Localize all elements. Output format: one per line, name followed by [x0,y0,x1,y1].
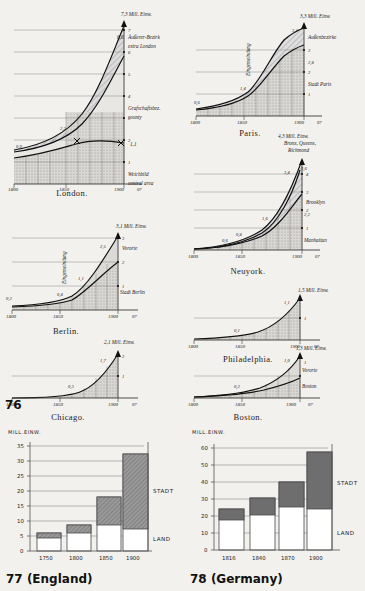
germany-unit-label: MILL.EINW. [192,429,225,435]
boston-label-boston: Boston [302,383,317,389]
paris-plot: 123 1800 1850 1900 07 3,3 Mill. Einw. 3,… [190,13,337,125]
berlin-label-city: Stadt Berlin [120,289,145,295]
newyork-plot: 12 34 1800 1850 1900 07 4,3 Mill. Einw. … [188,133,327,259]
germany-legend-stadt: STADT [337,480,358,486]
chart-newyork: 12 34 1800 1850 1900 07 4,3 Mill. Einw. … [188,150,364,280]
berlin-xtick-1900: 1900 [108,314,119,319]
england-legend-land: LAND [153,536,171,542]
newyork-top-label-3: Richmond [287,147,309,153]
london-label-county: Grafschaftsbez. [128,105,160,111]
newyork-value-3-4: 3,4 [284,170,290,176]
berlin-label-vororte: Vororte [122,245,138,251]
germany-xtick-1870: 1870 [281,555,295,561]
svg-text:35: 35 [17,443,24,449]
germany-legend-land: LAND [337,530,355,536]
newyork-value-0-6: 0,6 [222,238,228,244]
berlin-xtick-07: 07 [132,314,137,319]
london-value-1-1: 1,1 [130,141,137,147]
boston-value-1-0: 1,0 [284,358,290,364]
berlin-plot: 123 1800 1850 1900 07 3,1 Mill. Einw. 2,… [6,223,147,319]
chicago-top-label: 2,1 Mill. Einw. [104,339,135,345]
svg-text:5: 5 [128,72,131,77]
figure-number-78: 78 (Germany) [190,572,364,586]
chart-boston: 1 1800 1850 1900 07 1,3 Mill. Einw. 1,0 … [188,348,364,426]
svg-text:60: 60 [201,445,208,451]
berlin-value-2-5: 2,5 [100,244,106,250]
england-xtick-1850: 1850 [99,555,113,561]
bar-chart-germany: MILL.EINW. [188,424,364,589]
newyork-label-manhattan: Manhattan [303,237,327,243]
chicago-plot: 1 2 1800 1850 1900 07 2,1 Mill. Einw. 1,… [6,339,138,407]
boston-xtick-1800: 1800 [188,402,199,407]
germany-xtick-1900: 1900 [309,555,323,561]
newyork-value-0-8: 0,8 [236,232,242,238]
paris-value-1-4: 1,4 [240,86,246,92]
svg-text:1: 1 [122,374,124,379]
svg-text:0: 0 [204,547,208,553]
chart-london: 12 34 56 7 1800 1850 1900 07 7,3 Mill. E… [4,2,184,202]
svg-text:1: 1 [304,360,306,365]
chicago-value-0-3: 0,3 [68,384,74,390]
paris-label-city: Stadt Paris [308,81,331,87]
paris-xtick-1800: 1800 [190,120,201,125]
svg-text:25: 25 [17,473,24,479]
paris-value-2-8: 2,8 [308,60,314,66]
newyork-label-brooklyn: Brooklyn [306,199,325,205]
berlin-value-1-1: 1,1 [78,276,84,282]
paris-label-eingemeindung: Eingemeindung [245,43,251,77]
paris-value-0-6: 0,6 [194,100,200,106]
england-xtick-1800: 1800 [69,555,83,561]
svg-text:2: 2 [308,70,311,75]
germany-xtick-1816: 1816 [222,555,236,561]
svg-text:40: 40 [201,479,208,485]
boston-label-vororte: Vororte [302,367,318,373]
svg-text:10: 10 [17,518,24,524]
england-xtick-1900: 1900 [126,555,140,561]
london-label-outer: Äußerer-Bezirk [127,34,160,40]
chart-chicago: 1 2 1800 1850 1900 07 2,1 Mill. Einw. 1,… [4,348,184,426]
paris-top-label: 3,3 Mill. Einw. [300,13,331,19]
newyork-xtick-1800: 1800 [188,254,199,259]
newyork-value-1-6: 1,6 [262,216,268,222]
svg-text:2: 2 [122,354,125,359]
chart-caption-chicago: Chicago. [8,412,128,422]
svg-text:3: 3 [306,190,309,195]
berlin-label-eingemeindung: Eingemeindung [61,251,67,285]
svg-text:10: 10 [201,530,208,536]
berlin-xtick-1800: 1800 [6,314,17,319]
london-label-central: Weichbild [128,171,149,177]
svg-text:2: 2 [122,260,125,265]
newyork-xtick-1900: 1900 [292,254,303,259]
svg-text:4: 4 [306,172,309,177]
svg-text:15: 15 [17,503,24,509]
svg-text:6: 6 [128,50,131,55]
germany-xtick-1840: 1840 [252,555,266,561]
philadelphia-top-label: 1,5 Mill. Einw. [298,287,329,293]
boston-xtick-1900: 1900 [286,402,297,407]
philadelphia-value-1-1: 1,1 [284,300,290,306]
berlin-value-0-2: 0,2 [6,296,12,302]
england-xtick-1750: 1750 [39,555,53,561]
chicago-value-1-7: 1,7 [100,358,106,364]
svg-text:1: 1 [308,92,310,97]
paris-xtick-1900: 1900 [294,120,305,125]
newyork-value-2-2: 2,2 [304,212,310,218]
philadelphia-value-0-1: 0,1 [234,328,240,334]
svg-text:3: 3 [122,236,125,241]
figure-sheet: 12 34 56 7 1800 1850 1900 07 7,3 Mill. E… [0,0,365,591]
svg-text:30: 30 [201,496,208,502]
england-legend-stadt: STADT [153,488,174,494]
svg-text:4: 4 [128,94,131,99]
london-xtick-07: 07 [137,187,142,192]
chart-caption-boston: Boston. [188,412,308,422]
london-label-outer-value: 6,6 [117,34,124,40]
figure-number-76: 76 [5,398,22,412]
chicago-xtick-07: 07 [132,402,137,407]
london-label-central-2: central area [128,180,154,186]
berlin-xtick-1850: 1850 [53,314,64,319]
svg-text:0: 0 [20,548,24,554]
england-unit-label: MILL.EINW. [8,429,41,435]
chart-berlin: 123 1800 1850 1900 07 3,1 Mill. Einw. 2,… [4,222,184,342]
svg-text:20: 20 [17,488,24,494]
svg-text:3: 3 [308,48,311,53]
